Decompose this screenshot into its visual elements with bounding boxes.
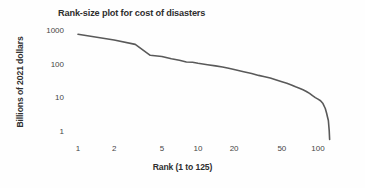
data-series-line: [78, 34, 330, 139]
plot-area: [0, 0, 365, 188]
chart-figure: Rank-size plot for cost of disasters Bil…: [0, 0, 365, 188]
